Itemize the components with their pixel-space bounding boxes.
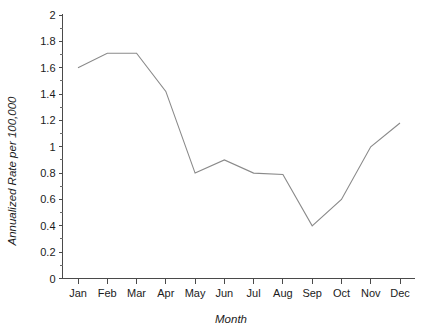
y-tick-label: 1.2 <box>40 114 55 126</box>
y-axis-tick-labels: 00.20.40.60.811.21.41.61.82 <box>40 9 55 285</box>
x-tick-label: Aug <box>273 287 293 299</box>
y-axis-ticks <box>59 15 63 279</box>
x-tick-label: May <box>185 287 206 299</box>
x-tick-label: Jun <box>215 287 233 299</box>
x-axis-title: Month <box>215 313 247 325</box>
x-tick-label: Dec <box>390 287 410 299</box>
x-tick-label: Nov <box>361 287 381 299</box>
data-series-line <box>78 53 400 226</box>
y-tick-label: 0.6 <box>40 193 55 205</box>
y-tick-label: 1.4 <box>40 88 55 100</box>
x-axis-tick-labels: JanFebMarAprMayJunJulAugSepOctNovDec <box>69 287 410 299</box>
y-axis-title: Annualized Rate per 100,000 <box>6 96 18 247</box>
y-tick-label: 1.6 <box>40 62 55 74</box>
x-tick-label: Oct <box>333 287 350 299</box>
chart-canvas: 00.20.40.60.811.21.41.61.82 JanFebMarApr… <box>0 0 428 335</box>
y-tick-label: 1 <box>49 141 55 153</box>
y-tick-label: 0.4 <box>40 220 55 232</box>
y-tick-label: 1.8 <box>40 35 55 47</box>
y-tick-label: 0.8 <box>40 167 55 179</box>
x-tick-label: Feb <box>98 287 117 299</box>
x-tick-label: Apr <box>157 287 174 299</box>
x-axis-ticks <box>78 279 400 284</box>
y-tick-label: 0 <box>49 273 55 285</box>
x-tick-label: Jul <box>247 287 261 299</box>
x-tick-label: Jan <box>69 287 87 299</box>
y-tick-label: 2 <box>49 9 55 21</box>
x-tick-label: Mar <box>127 287 146 299</box>
y-tick-label: 0.2 <box>40 246 55 258</box>
line-chart-container: 00.20.40.60.811.21.41.61.82 JanFebMarApr… <box>0 0 428 335</box>
x-tick-label: Sep <box>302 287 322 299</box>
